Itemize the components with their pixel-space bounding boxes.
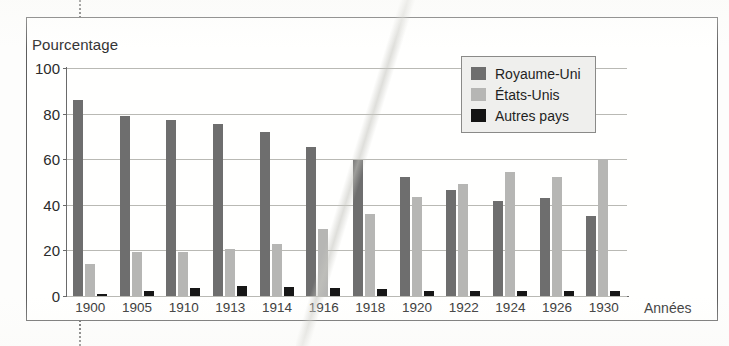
bar-1926-autres-pays bbox=[564, 291, 574, 296]
legend-item-autres-pays: Autres pays bbox=[471, 105, 581, 126]
bar-1914-royaume-uni bbox=[260, 132, 270, 296]
bar-1924-autres-pays bbox=[517, 291, 527, 296]
y-tick-label-60: 60 bbox=[43, 151, 60, 168]
legend-label-etats-unis: États-Unis bbox=[495, 87, 560, 103]
x-tick-label-1910: 1910 bbox=[160, 300, 207, 315]
legend-item-royaume-uni: Royaume-Uni bbox=[471, 63, 581, 84]
y-tick-label-0: 0 bbox=[52, 288, 60, 305]
bar-1900--tats-unis bbox=[85, 264, 95, 296]
gridline-0: 0 bbox=[67, 296, 627, 297]
x-tick-label-1920: 1920 bbox=[394, 300, 441, 315]
legend-swatch-autres-pays bbox=[471, 109, 486, 122]
x-tick-label-1913: 1913 bbox=[207, 300, 254, 315]
y-tick-mark-0 bbox=[63, 296, 67, 297]
bar-group-1916: 1916 bbox=[300, 68, 347, 296]
bar-group-1914: 1914 bbox=[254, 68, 301, 296]
legend-swatch-etats-unis bbox=[471, 88, 486, 101]
x-tick-label-1916: 1916 bbox=[300, 300, 347, 315]
bar-1916-royaume-uni bbox=[306, 147, 316, 296]
bar-group-1920: 1920 bbox=[394, 68, 441, 296]
x-tick-label-1900: 1900 bbox=[67, 300, 114, 315]
x-axis-title: Années bbox=[644, 300, 691, 316]
x-tick-label-1918: 1918 bbox=[347, 300, 394, 315]
bar-1914--tats-unis bbox=[272, 244, 282, 296]
x-tick-label-1924: 1924 bbox=[487, 300, 534, 315]
bar-1924-royaume-uni bbox=[493, 201, 503, 296]
bar-1913-autres-pays bbox=[237, 286, 247, 296]
bar-1918--tats-unis bbox=[365, 214, 375, 296]
bar-1905--tats-unis bbox=[132, 252, 142, 296]
bar-1914-autres-pays bbox=[284, 287, 294, 296]
bar-1918-autres-pays bbox=[377, 289, 387, 296]
y-tick-label-80: 80 bbox=[43, 105, 60, 122]
bar-1913--tats-unis bbox=[225, 249, 235, 296]
x-tick-label-1930: 1930 bbox=[580, 300, 627, 315]
bar-1900-autres-pays bbox=[97, 294, 107, 296]
legend-label-royaume-uni: Royaume-Uni bbox=[495, 66, 581, 82]
bar-group-1910: 1910 bbox=[160, 68, 207, 296]
bar-group-1913: 1913 bbox=[207, 68, 254, 296]
bar-1922-royaume-uni bbox=[446, 190, 456, 296]
bar-1913-royaume-uni bbox=[213, 124, 223, 296]
bar-1918-royaume-uni bbox=[353, 160, 363, 296]
legend-swatch-royaume-uni bbox=[471, 67, 486, 80]
bar-1905-royaume-uni bbox=[120, 116, 130, 296]
bar-1910--tats-unis bbox=[178, 252, 188, 296]
bar-1910-royaume-uni bbox=[166, 120, 176, 296]
bar-1920-royaume-uni bbox=[400, 177, 410, 296]
bar-1920--tats-unis bbox=[412, 197, 422, 296]
bar-1930-royaume-uni bbox=[586, 216, 596, 296]
bar-1930--tats-unis bbox=[598, 159, 608, 296]
x-tick-label-1922: 1922 bbox=[440, 300, 487, 315]
chart-legend: Royaume-Uni États-Unis Autres pays bbox=[461, 56, 596, 133]
bar-group-1900: 1900 bbox=[67, 68, 114, 296]
y-tick-label-40: 40 bbox=[43, 196, 60, 213]
bar-1910-autres-pays bbox=[190, 288, 200, 296]
bar-1922-autres-pays bbox=[470, 291, 480, 296]
bar-1905-autres-pays bbox=[144, 291, 154, 296]
bar-1922--tats-unis bbox=[458, 184, 468, 296]
y-axis-title: Pourcentage bbox=[32, 36, 118, 53]
bar-1920-autres-pays bbox=[424, 291, 434, 296]
bar-1926--tats-unis bbox=[552, 177, 562, 296]
bar-group-1918: 1918 bbox=[347, 68, 394, 296]
figure-canvas: Pourcentage Années 100806040200 19001905… bbox=[0, 0, 729, 346]
y-tick-label-100: 100 bbox=[35, 60, 60, 77]
bar-1916-autres-pays bbox=[330, 288, 340, 296]
x-tick-label-1914: 1914 bbox=[254, 300, 301, 315]
x-tick-label-1926: 1926 bbox=[534, 300, 581, 315]
bar-1930-autres-pays bbox=[610, 291, 620, 296]
legend-item-etats-unis: États-Unis bbox=[471, 84, 581, 105]
bar-1926-royaume-uni bbox=[540, 198, 550, 296]
bar-1916--tats-unis bbox=[318, 229, 328, 296]
bar-1900-royaume-uni bbox=[73, 100, 83, 296]
x-tick-label-1905: 1905 bbox=[114, 300, 161, 315]
bar-1924--tats-unis bbox=[505, 172, 515, 296]
legend-label-autres-pays: Autres pays bbox=[495, 108, 569, 124]
bar-group-1905: 1905 bbox=[114, 68, 161, 296]
y-tick-label-20: 20 bbox=[43, 242, 60, 259]
